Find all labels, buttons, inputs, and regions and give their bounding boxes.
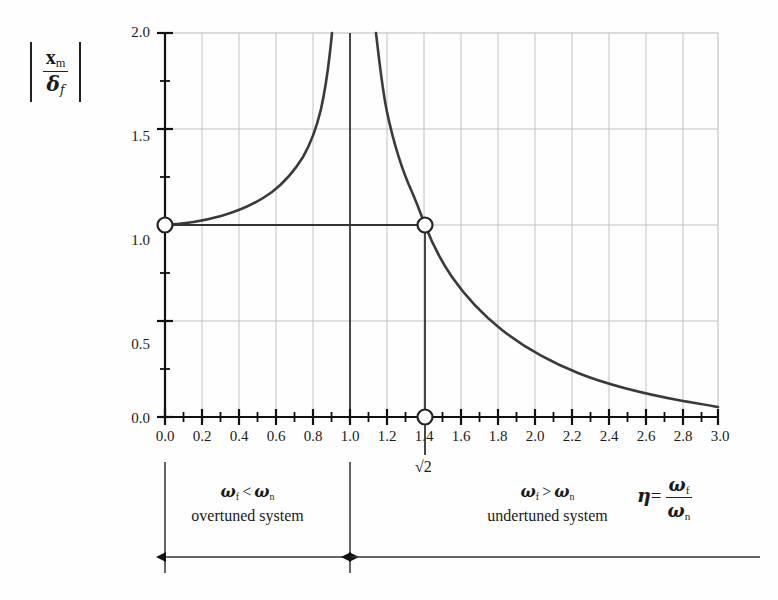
unity-crossover-point-marker (418, 218, 433, 233)
static-deflection-point-marker (158, 218, 173, 233)
plot-canvas (0, 0, 778, 600)
sqrt2-axis-point-marker (418, 410, 433, 425)
figure-root: xm δf 2.0 1.5 1.0 0.5 0.0 0.0 0.2 0.4 0.… (0, 0, 778, 600)
